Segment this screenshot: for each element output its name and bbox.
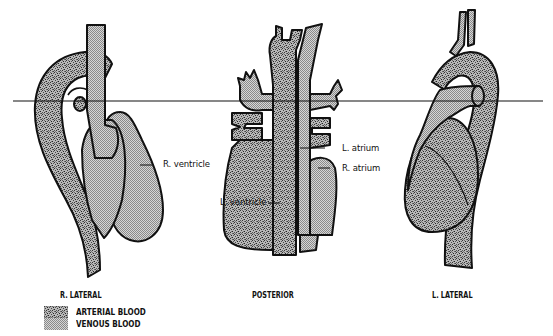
view-title-l-lateral: L. LATERAL — [432, 290, 473, 300]
heart-views-diagram — [0, 0, 553, 336]
truncated-caption — [18, 331, 538, 336]
left-ventricle-posterior — [223, 140, 275, 250]
view-title-r-lateral: R. LATERAL — [60, 290, 102, 300]
pulmonary-branch-r-lateral — [74, 97, 86, 111]
legend-item-venous: VENOUS BLOOD — [44, 318, 152, 330]
label-r-atrium: R. atrium — [342, 163, 380, 173]
legend-item-arterial: ARTERIAL BLOOD — [44, 306, 158, 318]
legend-label-arterial: ARTERIAL BLOOD — [76, 307, 146, 317]
arch-vessels-l-lateral — [450, 12, 466, 56]
pulmonary-vessel-r-lateral — [87, 25, 118, 158]
posterior-view — [223, 24, 342, 255]
label-r-ventricle: R. ventricle — [163, 159, 210, 169]
r-lateral-view — [35, 25, 163, 277]
ivc-posterior — [300, 235, 318, 252]
left-ventricle-l-lateral — [405, 118, 478, 232]
pulmonary-veins-left — [232, 113, 262, 140]
view-title-posterior: POSTERIOR — [252, 290, 294, 300]
l-lateral-view — [405, 10, 499, 268]
venous-swatch-icon — [44, 318, 68, 330]
legend-label-venous: VENOUS BLOOD — [76, 319, 140, 329]
label-l-atrium: L. atrium — [342, 143, 379, 153]
arterial-swatch-icon — [44, 306, 68, 318]
pa-opening-l-lateral — [472, 86, 484, 106]
label-l-ventricle: L. ventricle — [220, 197, 266, 207]
